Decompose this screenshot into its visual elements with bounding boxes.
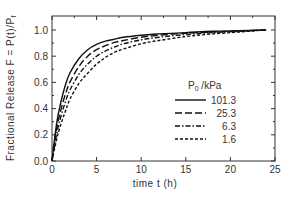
legend: P0 /kPa101.325.36.31.6: [175, 80, 236, 145]
y-tick-label: 0.4: [34, 103, 48, 114]
y-axis-label: Fractional Release F = P(t)/Pf: [5, 15, 17, 161]
legend-title: P0 /kPa: [188, 80, 222, 92]
release-chart: 0510152025 0.00.20.40.60.81.0 P0 /kPa101…: [0, 0, 295, 200]
x-tick-label: 10: [136, 164, 148, 175]
y-tick-label: 0.2: [34, 129, 48, 140]
legend-label: 101.3: [211, 95, 236, 106]
plot-frame: [52, 16, 275, 161]
y-tick-label: 0.0: [34, 156, 48, 167]
y-axis-ticks: 0.00.20.40.60.81.0: [34, 25, 275, 167]
legend-label: 25.3: [217, 108, 237, 119]
x-tick-label: 0: [49, 164, 55, 175]
x-axis-label: time t (h): [133, 178, 177, 189]
x-tick-label: 25: [269, 164, 281, 175]
x-tick-label: 5: [94, 164, 100, 175]
legend-label: 6.3: [222, 121, 236, 132]
y-tick-label: 0.6: [34, 77, 48, 88]
y-tick-label: 1.0: [34, 25, 48, 36]
legend-label: 1.6: [222, 134, 236, 145]
x-tick-label: 20: [225, 164, 237, 175]
x-tick-label: 15: [180, 164, 192, 175]
y-tick-label: 0.8: [34, 51, 48, 62]
